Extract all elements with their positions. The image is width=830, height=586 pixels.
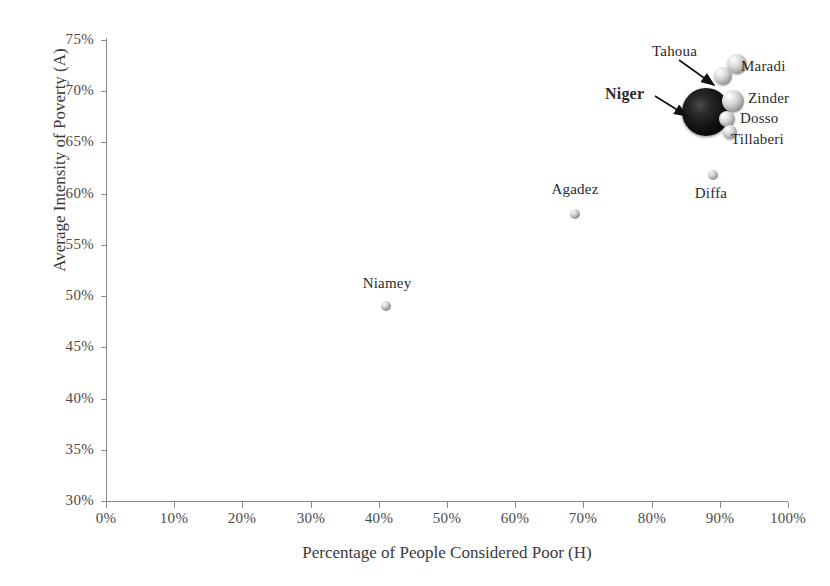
y-tick-label: 35%	[40, 441, 94, 458]
x-tick-mark	[379, 502, 380, 508]
y-axis-line	[106, 38, 107, 502]
y-tick-mark	[101, 194, 107, 195]
y-tick-mark	[101, 296, 107, 297]
label-zinder: Zinder	[748, 90, 789, 107]
x-tick-mark	[652, 502, 653, 508]
y-tick-mark	[101, 450, 107, 451]
label-niger: Niger	[605, 85, 644, 103]
x-tick-mark	[515, 502, 516, 508]
x-tick-label: 10%	[144, 510, 204, 527]
label-tillaberi: Tillaberi	[731, 131, 784, 148]
bubble-diffa	[708, 170, 718, 180]
label-diffa: Diffa	[695, 185, 727, 202]
label-dosso: Dosso	[740, 110, 779, 127]
bubble-tahoua	[714, 67, 732, 85]
y-tick-mark	[101, 399, 107, 400]
x-tick-mark	[583, 502, 584, 508]
y-tick-mark	[101, 142, 107, 143]
label-tahoua: Tahoua	[652, 43, 697, 60]
bubble-dosso	[719, 111, 735, 127]
y-tick-mark	[101, 347, 107, 348]
x-tick-label: 80%	[622, 510, 682, 527]
y-tick-label: 30%	[40, 492, 94, 509]
x-tick-label: 30%	[281, 510, 341, 527]
x-tick-mark	[788, 502, 789, 508]
x-tick-mark	[106, 502, 107, 508]
y-tick-mark	[101, 40, 107, 41]
x-tick-label: 50%	[417, 510, 477, 527]
x-tick-mark	[720, 502, 721, 508]
bubble-agadez	[570, 209, 580, 219]
y-tick-mark	[101, 91, 107, 92]
x-tick-label: 0%	[76, 510, 136, 527]
x-tick-label: 100%	[758, 510, 818, 527]
x-tick-mark	[447, 502, 448, 508]
x-tick-mark	[311, 502, 312, 508]
x-tick-label: 40%	[349, 510, 409, 527]
x-axis-title: Percentage of People Considered Poor (H)	[106, 543, 788, 563]
x-tick-label: 60%	[485, 510, 545, 527]
y-tick-label: 40%	[40, 390, 94, 407]
x-tick-label: 20%	[212, 510, 272, 527]
y-axis-title: Average Intensity of Poverty (A)	[50, 0, 70, 360]
chart-canvas: 30%35%40%45%50%55%60%65%70%75% 0%10%20%3…	[0, 0, 830, 586]
y-tick-mark	[101, 245, 107, 246]
label-maradi: Maradi	[741, 58, 786, 75]
label-agadez: Agadez	[551, 181, 598, 198]
x-tick-mark	[174, 502, 175, 508]
label-niamey: Niamey	[363, 275, 412, 292]
tahoua-arrow	[679, 60, 714, 85]
x-tick-label: 90%	[690, 510, 750, 527]
bubble-niamey	[381, 301, 391, 311]
x-tick-label: 70%	[553, 510, 613, 527]
x-tick-mark	[242, 502, 243, 508]
